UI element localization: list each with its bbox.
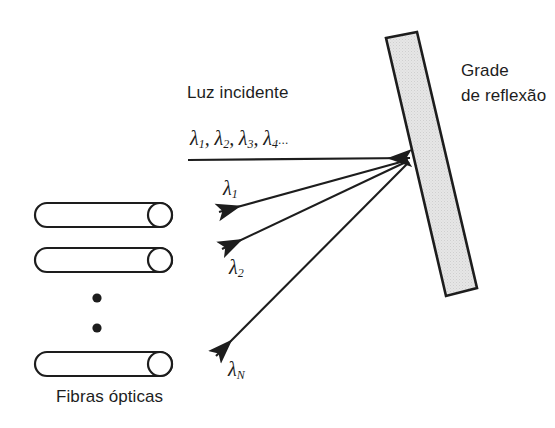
fiber-end-face-2 — [148, 248, 172, 272]
optical-fiber-n — [35, 352, 172, 376]
optical-fiber-group — [35, 203, 172, 376]
optical-fiber-2 — [35, 248, 172, 272]
ray-lambda-n — [216, 162, 409, 356]
incident-lambda-3: λ3, — [239, 127, 259, 149]
ray-label-lambda-n: λN — [228, 358, 245, 383]
ray-lambda-2 — [222, 161, 408, 249]
optical-demultiplexer-diagram: Luz incidente λ1, λ2, λ3, λ4... Grade de… — [0, 0, 555, 428]
incident-light-caption: Luz incidente — [187, 83, 288, 103]
fiber-end-face-1 — [148, 203, 172, 227]
incident-arrow — [188, 158, 410, 160]
optical-fiber-1 — [35, 203, 172, 227]
incident-lambda-4: λ4... — [263, 127, 288, 149]
fibers-caption: Fibras ópticas — [56, 387, 163, 407]
fiber-end-face-n — [148, 352, 172, 376]
grating-caption-line-1: Grade — [461, 58, 546, 83]
fiber-ellipsis-dot-2 — [92, 323, 101, 332]
ray-label-lambda-2: λ2 — [229, 256, 244, 281]
grating-caption: Grade de reflexão — [461, 58, 546, 108]
incident-wavelength-list: λ1, λ2, λ3, λ4... — [190, 127, 288, 152]
ray-label-lambda-1: λ1 — [223, 177, 238, 202]
grating-caption-line-2: de reflexão — [461, 83, 546, 108]
incident-lambda-1: λ1, — [190, 127, 210, 149]
incident-beam-ray — [188, 158, 410, 160]
incident-lambda-2: λ2, — [214, 127, 234, 149]
ray-lambda-1 — [219, 160, 408, 212]
fiber-ellipsis-dot-1 — [92, 293, 101, 302]
diffracted-rays — [216, 160, 409, 356]
